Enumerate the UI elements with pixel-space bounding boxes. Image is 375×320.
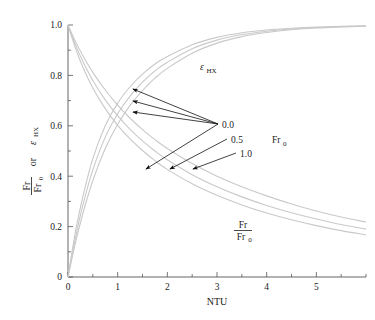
eps-hx-label-subscript: HX <box>207 67 217 75</box>
y-axis-title-epsilon: ε <box>27 141 38 145</box>
curve-fr_ratio-1_0 <box>68 25 366 235</box>
fr0-param-label-subscript: 0 <box>283 140 287 148</box>
chart-figure: 012345 00.20.40.60.81.0 NTU Fr Fr 0 or ε… <box>0 0 375 320</box>
curve-eps_hx-1_0 <box>68 26 366 277</box>
x-tick-label: 5 <box>314 282 319 292</box>
leader-line-eps-1 <box>133 101 218 124</box>
leader-line-fr-1 <box>170 139 227 169</box>
y-tick-label: 0.8 <box>50 71 62 81</box>
fr-ratio-label: Fr Fr 0 <box>234 220 252 244</box>
y-axis-tick-labels: 00.20.40.60.81.0 <box>50 20 62 282</box>
x-tick-label: 3 <box>215 282 220 292</box>
fr-ratio-label-numerator: Fr <box>239 220 248 230</box>
param-value-label-2: 1.0 <box>240 149 252 159</box>
y-axis-title-conjunction: or <box>27 157 38 166</box>
y-axis-title-epsilon-subscript: HX <box>32 127 40 137</box>
y-axis-title-denominator: Fr <box>32 183 43 193</box>
eps-hx-label: ε HX <box>200 62 217 75</box>
x-axis-ticks <box>68 272 366 277</box>
leader-line-fr-2 <box>193 153 236 169</box>
param-value-label-0: 0.0 <box>222 120 234 130</box>
x-tick-label: 0 <box>66 282 71 292</box>
fr0-param-label: Fr 0 <box>272 135 287 148</box>
x-axis-tick-labels: 012345 <box>66 282 319 292</box>
data-curves-group <box>68 25 366 277</box>
chart-canvas: 012345 00.20.40.60.81.0 NTU Fr Fr 0 or ε… <box>0 0 375 320</box>
x-tick-label: 1 <box>115 282 120 292</box>
axes-group <box>68 25 366 277</box>
x-axis-title: NTU <box>207 296 228 307</box>
y-axis-title: Fr Fr 0 or ε HX <box>21 127 45 195</box>
curve-eps_hx-0_5 <box>68 26 366 277</box>
y-tick-label: 0.4 <box>50 172 62 182</box>
x-tick-label: 4 <box>264 282 269 292</box>
y-tick-label: 0 <box>57 272 62 282</box>
x-tick-label: 2 <box>165 282 170 292</box>
curve-eps_hx-0_0 <box>68 26 366 277</box>
y-tick-label: 0.2 <box>50 222 62 232</box>
fr-ratio-label-denominator: Fr <box>237 232 246 242</box>
curve-fr_ratio-0_5 <box>68 25 366 229</box>
y-tick-label: 1.0 <box>50 20 62 30</box>
y-axis-title-numerator: Fr <box>21 181 32 191</box>
fr-ratio-label-denominator-subscript: 0 <box>248 236 252 244</box>
leader-line-eps-0 <box>133 89 218 124</box>
leader-lines-group <box>133 89 236 169</box>
fr0-param-label-symbol: Fr <box>272 135 281 145</box>
param-value-label-1: 0.5 <box>231 135 243 145</box>
eps-hx-label-symbol: ε <box>200 62 204 72</box>
y-axis-ticks <box>68 25 73 277</box>
leader-line-eps-2 <box>133 112 218 124</box>
y-axis-title-denominator-subscript: 0 <box>37 176 45 180</box>
y-tick-label: 0.6 <box>50 121 62 131</box>
